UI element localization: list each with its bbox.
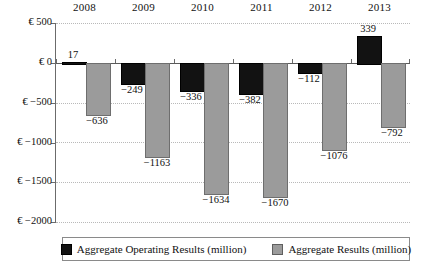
y-axis-label-0: € 0 [0,56,52,67]
bar-operating-2010[interactable] [180,63,205,92]
x-axis-label-2009: 2009 [115,1,172,13]
bar-operating-2009[interactable] [121,63,146,85]
bar-aggregate-2009[interactable] [145,63,170,158]
legend-item-aggregate-results[interactable]: Aggregate Results (million) [272,243,411,255]
bar-aggregate-2011[interactable] [263,63,288,198]
bar-value-operating-2008: 17 [52,49,94,60]
x-axis-tick-1 [115,59,116,63]
y-axis-label-500: € 500 [0,16,52,27]
x-axis-tick-6 [409,59,410,63]
x-axis-tick-4 [292,59,293,63]
legend-label-operating-results: Aggregate Operating Results (million) [77,243,247,255]
plot-area: 17 −636 −249 −1163 −336 −1634 −382 −1670… [56,23,410,222]
legend-swatch-dark-icon [61,244,72,255]
bar-value-aggregate-2012: −1076 [310,150,358,161]
legend-label-aggregate-results: Aggregate Results (million) [288,243,411,255]
bar-aggregate-2013[interactable] [381,63,406,128]
gridline-m2000 [56,222,410,223]
x-axis-label-2008: 2008 [56,1,113,13]
y-axis-label-m1000: € −1000 [0,136,52,147]
bar-value-aggregate-2010: −1634 [192,194,240,205]
x-axis-label-2011: 2011 [233,1,290,13]
x-axis-label-2013: 2013 [351,1,408,13]
bar-chart: 2008 2009 2010 2011 2012 2013 € 500 € 0 … [0,0,422,268]
x-axis-label-2012: 2012 [292,1,349,13]
bar-value-aggregate-2011: −1670 [251,197,299,208]
bar-value-aggregate-2013: −792 [369,127,415,138]
legend-swatch-light-icon [272,244,283,255]
bar-aggregate-2008[interactable] [86,63,111,116]
x-axis-category-labels: 2008 2009 2010 2011 2012 2013 [56,1,410,16]
y-axis-label-m500: € −500 [0,96,52,107]
bar-operating-2013[interactable] [357,36,382,65]
y-axis-label-m2000: € −2000 [0,215,52,226]
chart-legend: Aggregate Operating Results (million) Ag… [62,237,410,261]
x-axis-label-2010: 2010 [174,1,231,13]
x-axis-tick-5 [351,59,352,63]
y-axis-label-m1500: € −1500 [0,175,52,186]
bar-value-operating-2013: 339 [347,23,389,34]
bar-value-aggregate-2009: −1163 [133,157,181,168]
bar-aggregate-2012[interactable] [322,63,347,151]
x-axis-tick-2 [174,59,175,63]
legend-item-operating-results[interactable]: Aggregate Operating Results (million) [61,243,247,255]
bar-value-aggregate-2008: −636 [76,115,118,126]
x-axis-tick-3 [233,59,234,63]
bar-aggregate-2010[interactable] [204,63,229,195]
gridline-m1500 [56,182,410,183]
bar-operating-2008[interactable] [62,62,87,65]
bar-operating-2011[interactable] [239,63,264,95]
gridline-m1000 [56,142,410,143]
